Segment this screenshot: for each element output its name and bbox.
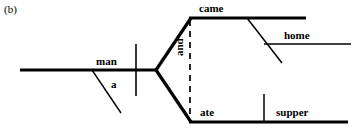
fork-lower-stroke bbox=[156, 70, 191, 122]
word-subject-man: man bbox=[96, 56, 117, 67]
word-modifier-home: home bbox=[284, 30, 310, 41]
word-conjunction-and: and bbox=[174, 38, 185, 56]
word-modifier-a: a bbox=[111, 79, 117, 90]
sentence-diagram-figure: (b) man a came home and ate supper bbox=[0, 0, 356, 129]
modifier-a-slant-stroke bbox=[92, 70, 121, 113]
figure-label: (b) bbox=[4, 4, 17, 15]
word-verb-came: came bbox=[199, 3, 223, 14]
word-object-supper: supper bbox=[276, 107, 308, 118]
modifier-home-slant-stroke bbox=[247, 18, 282, 63]
word-verb-ate: ate bbox=[200, 107, 214, 118]
